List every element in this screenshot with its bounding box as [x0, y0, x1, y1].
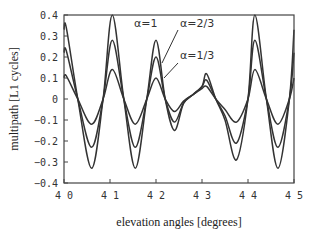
- x-axis-ticks: 4 04 14 24 34 44 5: [55, 179, 303, 201]
- y-tick-label: 0.1: [40, 73, 58, 84]
- annotation-pointer-alpha-1-3: [164, 63, 178, 78]
- x-axis-title: elevation angles [degrees]: [116, 215, 241, 229]
- y-tick-label: −0.1: [34, 115, 58, 126]
- annotation-alpha-1: α=1: [134, 17, 157, 30]
- annotation-alpha-1-3: α=1/3: [180, 49, 214, 62]
- x-tick-label: 4 2: [147, 190, 165, 201]
- y-tick-label: 0.4: [40, 10, 58, 21]
- annotation-pointer-alpha-2-3: [162, 30, 178, 63]
- y-tick-label: 0.2: [40, 52, 58, 63]
- x-tick-label: 4 5: [285, 190, 303, 201]
- y-tick-label: −0.4: [34, 178, 58, 189]
- y-tick-label: 0.3: [40, 31, 58, 42]
- x-tick-label: 4 0: [55, 190, 73, 201]
- y-tick-label: −0.2: [34, 136, 58, 147]
- y-axis-title: multipath [L1 cycles]: [7, 47, 21, 150]
- series-line-1: [64, 15, 294, 168]
- plot-lines: [64, 15, 294, 168]
- x-tick-label: 4 3: [193, 190, 211, 201]
- x-tick-label: 4 1: [101, 190, 119, 201]
- annotation-alpha-2-3: α=2/3: [180, 17, 214, 30]
- x-tick-label: 4 4: [239, 190, 257, 201]
- y-tick-label: −0.3: [34, 157, 58, 168]
- multipath-chart: 0.40.30.20.10−0.1−0.2−0.3−0.4 4 04 14 24…: [0, 0, 309, 234]
- y-tick-label: 0: [52, 94, 58, 105]
- y-axis-ticks: 0.40.30.20.10−0.1−0.2−0.3−0.4: [34, 10, 68, 189]
